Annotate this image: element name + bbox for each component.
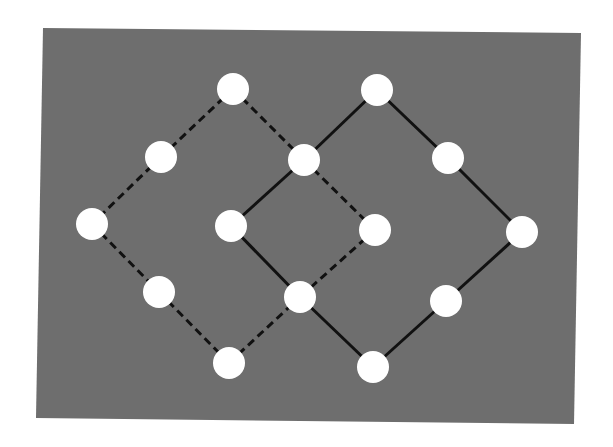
node-G	[215, 210, 247, 242]
node-H	[359, 214, 391, 246]
node-J	[143, 276, 175, 308]
node-B	[361, 74, 393, 106]
node-D	[288, 144, 320, 176]
node-F	[76, 208, 108, 240]
lattice-diagram	[0, 0, 613, 447]
node-M	[213, 347, 245, 379]
node-A	[217, 73, 249, 105]
node-K	[284, 281, 316, 313]
node-L	[430, 285, 462, 317]
background-panel	[36, 28, 581, 424]
node-N	[357, 351, 389, 383]
node-C	[145, 141, 177, 173]
node-I	[506, 216, 538, 248]
node-E	[432, 142, 464, 174]
